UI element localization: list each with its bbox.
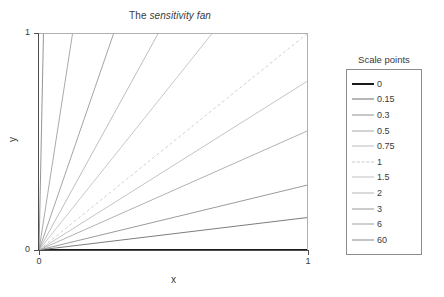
legend-item-1[interactable]: 1 (347, 154, 421, 170)
legend-item-60[interactable]: 60 (347, 232, 421, 248)
fan-lines-group (39, 33, 308, 250)
legend-label-0.5: 0.5 (374, 126, 390, 136)
legend-label-6: 6 (374, 219, 382, 229)
fan-line-2 (39, 33, 158, 250)
x-axis-title: x (39, 274, 308, 285)
legend-item-0.3[interactable]: 0.3 (347, 107, 421, 123)
chart-title: The sensitivity fan (0, 10, 340, 21)
x-tick-label-1: 1 (302, 256, 314, 266)
legend-swatch-2 (352, 188, 374, 198)
fan-line-0.15 (39, 217, 308, 250)
legend-swatch-0 (352, 79, 374, 89)
legend-item-0.5[interactable]: 0.5 (347, 123, 421, 139)
legend-label-3: 3 (374, 204, 382, 214)
legend-item-2[interactable]: 2 (347, 185, 421, 201)
fan-line-1.5 (39, 33, 213, 250)
legend-label-1: 1 (374, 157, 382, 167)
legend-swatch-60 (352, 235, 374, 245)
fan-line-0.5 (39, 131, 308, 250)
fan-lines-svg (39, 33, 308, 250)
legend-item-0.15[interactable]: 0.15 (347, 92, 421, 108)
x-axis-line (38, 250, 309, 251)
legend-label-1.5: 1.5 (374, 172, 390, 182)
legend-item-3[interactable]: 3 (347, 201, 421, 217)
fan-line-3 (39, 33, 114, 250)
y-axis-title: y (7, 120, 18, 160)
fan-line-6 (39, 33, 73, 250)
legend-swatch-1.5 (352, 172, 374, 182)
legend: Scale points 00.150.30.50.7511.523660 (346, 54, 422, 255)
legend-label-60: 60 (374, 235, 387, 245)
chart-title-italic: sensitivity fan (149, 10, 211, 21)
legend-box: 00.150.30.50.7511.523660 (346, 69, 422, 255)
legend-item-0[interactable]: 0 (347, 76, 421, 92)
y-tick-label-1: 1 (18, 27, 30, 37)
legend-label-2: 2 (374, 188, 382, 198)
x-tick-label-0: 0 (33, 256, 45, 266)
legend-label-0.15: 0.15 (374, 94, 395, 104)
fan-line-60 (39, 33, 43, 250)
legend-label-0: 0 (374, 79, 382, 89)
x-tick-mark-0 (39, 251, 40, 255)
fan-line-0.75 (39, 81, 308, 250)
y-tick-mark-0 (34, 250, 38, 251)
legend-swatch-0.15 (352, 94, 374, 104)
legend-title: Scale points (346, 54, 422, 65)
legend-label-0.3: 0.3 (374, 110, 390, 120)
legend-swatch-1 (352, 157, 374, 167)
legend-swatch-0.5 (352, 126, 374, 136)
y-tick-label-0: 0 (18, 244, 30, 254)
legend-item-1.5[interactable]: 1.5 (347, 170, 421, 186)
legend-item-6[interactable]: 6 (347, 216, 421, 232)
legend-swatch-0.3 (352, 110, 374, 120)
legend-label-0.75: 0.75 (374, 141, 395, 151)
legend-item-0.75[interactable]: 0.75 (347, 138, 421, 154)
legend-swatch-3 (352, 204, 374, 214)
chart-figure: The sensitivity fan 0 1 0 1 x y Scale po… (0, 0, 444, 297)
plot-area (39, 33, 308, 250)
legend-swatch-6 (352, 219, 374, 229)
chart-title-plain: The (129, 10, 149, 21)
y-axis-line (38, 33, 39, 250)
y-tick-mark-1 (34, 33, 38, 34)
x-tick-mark-1 (308, 251, 309, 255)
legend-swatch-0.75 (352, 141, 374, 151)
